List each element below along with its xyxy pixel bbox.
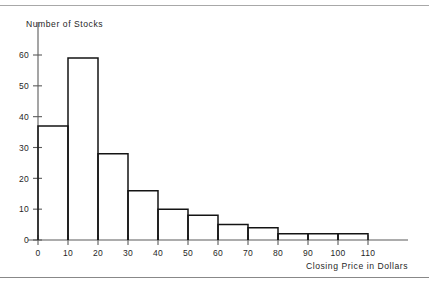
y-axis-title: Number of Stocks (26, 19, 103, 29)
histogram-bar (308, 234, 338, 240)
histogram-bar (248, 228, 278, 240)
x-tick-label: 0 (35, 248, 40, 258)
x-tick-label: 40 (153, 248, 163, 258)
x-tick-label: 90 (303, 248, 313, 258)
x-tick-label: 50 (183, 248, 193, 258)
histogram-bar (158, 209, 188, 240)
histogram-bar (278, 234, 308, 240)
x-tick-label: 20 (93, 248, 103, 258)
y-tick-label: 0 (24, 235, 29, 245)
histogram-bar (68, 58, 98, 240)
y-tick-label: 40 (19, 112, 29, 122)
x-tick-label: 80 (273, 248, 283, 258)
x-tick-label: 70 (243, 248, 253, 258)
histogram-chart: 0102030405060 0102030405060708090100110 … (0, 0, 429, 287)
x-tick-label: 60 (213, 248, 223, 258)
x-tick-label: 100 (330, 248, 345, 258)
histogram-bar (128, 191, 158, 240)
histogram-bar (98, 154, 128, 240)
histogram-bar (338, 234, 368, 240)
histogram-bar (218, 225, 248, 240)
y-tick-label: 10 (19, 204, 29, 214)
y-tick-label: 50 (19, 81, 29, 91)
histogram-bar (188, 215, 218, 240)
bar-group (38, 58, 368, 240)
histogram-bar (38, 126, 68, 240)
x-tick-label: 30 (123, 248, 133, 258)
histogram-svg: 0102030405060 0102030405060708090100110 … (0, 0, 429, 287)
x-tick-label: 110 (361, 248, 375, 258)
page-canvas: 0102030405060 0102030405060708090100110 … (0, 0, 429, 287)
y-tick-label: 30 (19, 143, 29, 153)
x-axis-title: Closing Price in Dollars (306, 261, 408, 271)
y-tick-label: 20 (19, 174, 29, 184)
x-tick-label: 10 (63, 248, 73, 258)
x-tick-group: 0102030405060708090100110 (35, 235, 375, 258)
y-tick-label: 60 (19, 50, 29, 60)
